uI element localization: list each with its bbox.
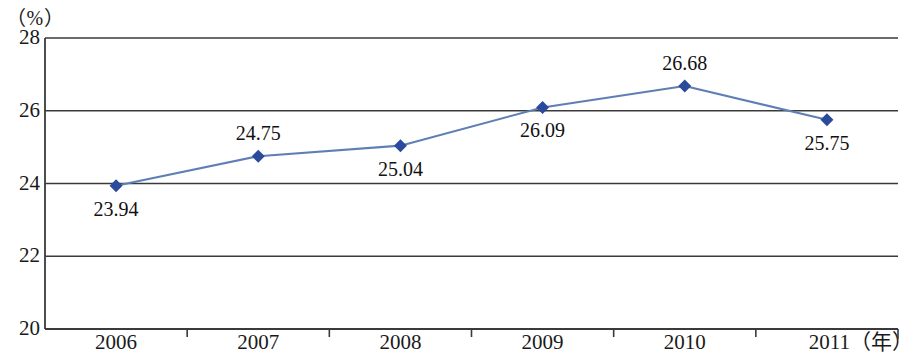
data-point-marker xyxy=(110,179,123,192)
data-point-marker xyxy=(394,139,407,152)
data-point-marker xyxy=(536,101,549,114)
plot-area xyxy=(0,0,913,360)
data-point-marker xyxy=(820,113,833,126)
data-point-label: 24.75 xyxy=(213,123,303,143)
data-point-label: 25.04 xyxy=(355,159,445,179)
line-chart: （%） 2022242628 200620072008200920102011（… xyxy=(0,0,913,360)
data-point-label: 26.68 xyxy=(640,53,730,73)
data-point-marker xyxy=(252,150,265,163)
data-point-label: 23.94 xyxy=(71,199,161,219)
data-point-label: 26.09 xyxy=(498,120,588,140)
data-point-marker xyxy=(678,80,691,93)
data-point-label: 25.75 xyxy=(782,133,872,153)
